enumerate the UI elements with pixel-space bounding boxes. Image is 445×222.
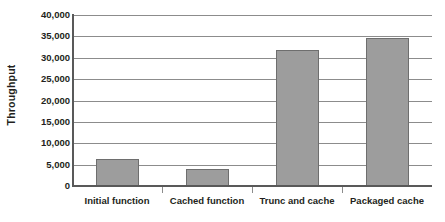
y-axis-tick-label: 30,000	[24, 53, 70, 63]
gridline	[72, 15, 432, 16]
x-axis-category-label: Initial function	[72, 195, 162, 206]
y-axis-line	[72, 14, 74, 187]
x-axis-tick	[252, 187, 253, 193]
y-axis-tick-label: 0	[24, 181, 70, 191]
bar	[186, 169, 229, 186]
plot-area	[72, 15, 432, 186]
y-axis-title-label: Throughput	[5, 65, 17, 126]
y-axis-tick-labels: 05,00010,00015,00020,00025,00030,00035,0…	[22, 0, 70, 222]
bar	[276, 50, 319, 186]
y-axis-tick-label: 35,000	[24, 31, 70, 41]
y-axis-tick-label: 25,000	[24, 74, 70, 84]
y-axis-title: Throughput	[0, 0, 22, 190]
bar	[96, 159, 139, 186]
y-axis-tick-label: 5,000	[24, 160, 70, 170]
bar	[366, 38, 409, 186]
x-axis-tick	[342, 187, 343, 193]
x-axis-category-label: Trunc and cache	[252, 195, 342, 206]
y-axis-tick-label: 20,000	[24, 96, 70, 106]
x-axis-tick	[162, 187, 163, 193]
bar-chart: Throughput 05,00010,00015,00020,00025,00…	[0, 0, 445, 222]
y-axis-tick-label: 15,000	[24, 117, 70, 127]
x-axis-category-label: Packaged cache	[342, 195, 432, 206]
x-axis-category-label: Cached function	[162, 195, 252, 206]
y-axis-tick-label: 40,000	[24, 10, 70, 20]
y-axis-tick-label: 10,000	[24, 138, 70, 148]
